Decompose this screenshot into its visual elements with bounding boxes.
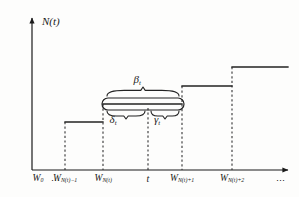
y-axis-label: N(t): [42, 16, 60, 27]
x-tick-label-subscript: N(t)+1: [178, 177, 194, 183]
x-tick-label-main: t: [147, 173, 150, 184]
beta-brace: [107, 87, 179, 96]
x-tick-label-subscript: N(t)−1: [61, 177, 77, 183]
delta-subscript: t: [115, 119, 117, 126]
step-function-group: [65, 67, 288, 122]
x-tick-label-subscript: 0: [40, 177, 43, 183]
x-tick-label-wn: WN(t): [95, 174, 112, 184]
delta-label: δt: [110, 114, 117, 126]
axis-group: [32, 18, 288, 170]
dashed-droplines-group: [65, 67, 232, 170]
x-tick-label-subscript: N(t)+2: [228, 177, 244, 183]
x-tick-label-main: W: [170, 173, 178, 183]
x-tick-label-subscript: N(t): [102, 177, 111, 183]
figure-canvas: [0, 0, 299, 197]
x-tick-label-w0: W0: [33, 174, 44, 184]
gamma-label: γt: [154, 114, 160, 126]
x-tick-label-wn-minus-1: WN(t)−1: [53, 174, 77, 184]
x-tick-label-wn-plus-1: WN(t)+1: [170, 174, 194, 184]
x-tick-label-t: t: [147, 174, 150, 184]
x-tick-label-ellipsis-right: ⋯: [276, 177, 286, 186]
renewal-process-figure: N(t) W0⋯WN(t)−1WN(t)tWN(t)+1WN(t)+2⋯ βtδ…: [0, 0, 299, 197]
brace-group: [107, 87, 179, 119]
x-tick-label-main: W: [53, 173, 61, 183]
x-tick-label-main: W: [220, 173, 228, 183]
beta-label: βt: [134, 74, 141, 86]
x-tick-label-wn-plus-2: WN(t)+2: [220, 174, 244, 184]
beta-subscript: t: [139, 79, 141, 86]
gamma-subscript: t: [158, 119, 160, 126]
